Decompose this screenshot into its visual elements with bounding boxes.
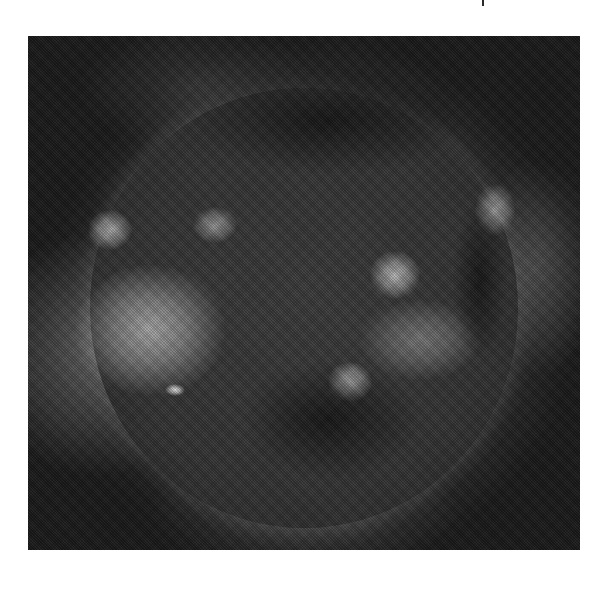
solar-xray-image — [28, 36, 580, 550]
page-tick-mark — [482, 0, 484, 6]
halftone-noise — [28, 36, 580, 550]
